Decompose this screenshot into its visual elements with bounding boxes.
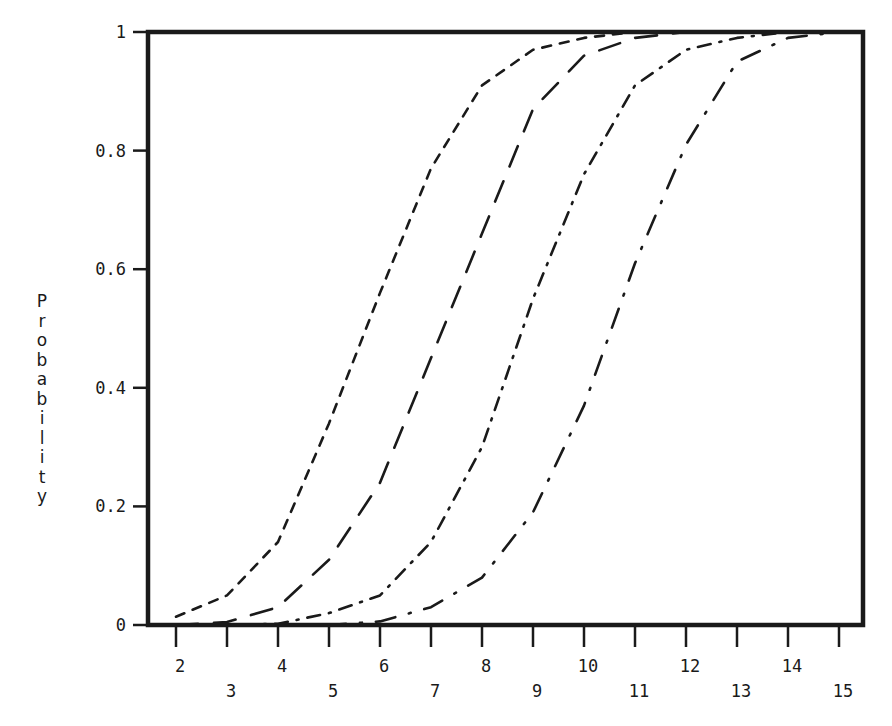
x-tick-label: 7 xyxy=(430,681,440,701)
x-tick-label: 12 xyxy=(680,656,700,676)
y-axis-label-letter: b xyxy=(32,351,52,371)
curves xyxy=(176,32,839,625)
y-tick-label: 1 xyxy=(116,22,126,42)
y-tick-label: 0.6 xyxy=(95,259,126,279)
curve-4 xyxy=(176,32,839,625)
x-tick-label: 8 xyxy=(481,656,491,676)
x-tick-label: 5 xyxy=(328,681,338,701)
y-axis-label-letter: l xyxy=(32,429,52,449)
probability-chart: 00.20.40.60.81 23456789101112131415 xyxy=(0,0,892,726)
y-axis-label-letter: a xyxy=(32,370,52,390)
x-axis-ticks: 23456789101112131415 xyxy=(175,625,853,701)
curve-2 xyxy=(176,32,839,625)
y-axis-label-letter: i xyxy=(32,448,52,468)
y-axis-label-letter: i xyxy=(32,409,52,429)
y-axis-label-letter: b xyxy=(32,390,52,410)
x-tick-label: 15 xyxy=(833,681,853,701)
y-axis-ticks: 00.20.40.60.81 xyxy=(95,22,148,635)
y-axis-label-letter: o xyxy=(32,331,52,351)
curve-1 xyxy=(176,32,839,617)
x-tick-label: 9 xyxy=(532,681,542,701)
curve-3 xyxy=(176,32,839,625)
y-axis-label-letter: y xyxy=(32,487,52,507)
x-tick-label: 13 xyxy=(731,681,751,701)
y-axis-label-letter: r xyxy=(32,312,52,332)
y-tick-label: 0 xyxy=(116,615,126,635)
y-axis-label: Probability xyxy=(32,292,52,507)
y-tick-label: 0.2 xyxy=(95,496,126,516)
y-axis-label-letter: P xyxy=(32,292,52,312)
y-tick-label: 0.4 xyxy=(95,378,126,398)
x-tick-label: 11 xyxy=(629,681,649,701)
x-tick-label: 2 xyxy=(175,656,185,676)
x-tick-label: 10 xyxy=(578,656,598,676)
y-axis-label-letter: t xyxy=(32,468,52,488)
x-tick-label: 4 xyxy=(277,656,287,676)
y-tick-label: 0.8 xyxy=(95,141,126,161)
x-tick-label: 6 xyxy=(379,656,389,676)
plot-frame xyxy=(148,32,863,625)
x-tick-label: 14 xyxy=(782,656,802,676)
x-tick-label: 3 xyxy=(226,681,236,701)
